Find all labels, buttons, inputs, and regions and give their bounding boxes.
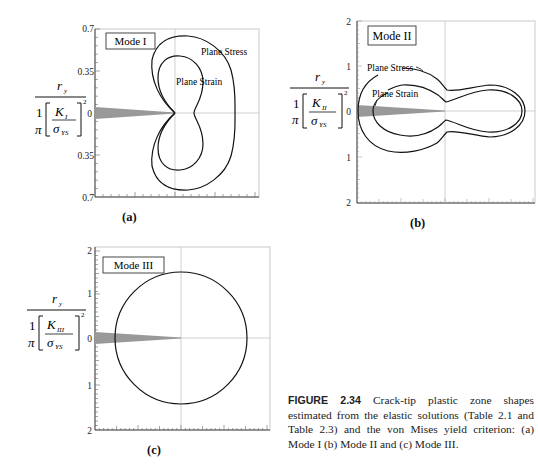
svg-text:0: 0 (87, 334, 92, 344)
figure-caption: FIGURE 2.34 Crack-tip plastic zone shape… (288, 393, 534, 451)
svg-text:σ: σ (311, 113, 318, 128)
plane-strain-label: Plane Strain (372, 89, 418, 99)
panel-b: Mode II Plane Stress Plane Strain 2 1 0 … (290, 17, 535, 208)
svg-text:0.35: 0.35 (77, 151, 94, 161)
svg-text:r: r (315, 69, 321, 84)
x-axis-ticks (361, 198, 533, 203)
svg-text:y: y (321, 78, 326, 86)
mode-label: Mode I (114, 35, 146, 47)
y-tick-labels: 0.7 0.35 0 0.35 0.7 (77, 24, 94, 203)
svg-text:r: r (52, 291, 58, 306)
subfigure-label-a: (a) (122, 210, 137, 225)
svg-text:1: 1 (36, 105, 43, 120)
svg-text:0: 0 (87, 109, 92, 119)
crack-shape (95, 107, 175, 119)
svg-text:0.35: 0.35 (77, 67, 94, 77)
svg-text:σ: σ (47, 335, 54, 350)
svg-text:2: 2 (344, 89, 348, 97)
svg-text:III: III (56, 326, 65, 334)
svg-text:YS: YS (319, 121, 327, 129)
svg-text:π: π (292, 112, 299, 127)
svg-text:YS: YS (55, 343, 63, 351)
svg-text:2: 2 (87, 246, 92, 256)
svg-text:y: y (63, 87, 68, 95)
crack-shape (357, 105, 445, 117)
x-axis-ticks (103, 192, 255, 197)
svg-text:1: 1 (346, 153, 351, 163)
plane-stress-label: Plane Stress (367, 63, 413, 73)
svg-text:1: 1 (87, 381, 92, 391)
plane-strain-label: Plane Strain (176, 77, 222, 87)
svg-text:II: II (321, 104, 327, 112)
y-axis-label: r y 1 π 2 K III σ YS (27, 291, 86, 351)
svg-text:1: 1 (29, 318, 36, 333)
svg-text:y: y (58, 300, 63, 308)
svg-text:2: 2 (83, 98, 87, 106)
svg-text:π: π (35, 122, 42, 137)
svg-text:0.7: 0.7 (82, 193, 94, 203)
svg-text:σ: σ (53, 121, 60, 136)
crack-shape (95, 332, 181, 344)
svg-text:π: π (28, 335, 35, 350)
panel-c: Mode III 2 1 0 1 2 r y 1 π 2 K III σ YS (27, 246, 270, 436)
figure-number: FIGURE 2.34 (288, 394, 361, 406)
x-axis-ticks (99, 425, 267, 430)
y-tick-labels: 2 1 0 1 2 (87, 246, 92, 436)
svg-text:K: K (54, 104, 65, 119)
svg-text:r: r (57, 78, 63, 93)
y-axis-label: r y 1 π 2 K II σ YS (290, 69, 349, 129)
svg-text:2: 2 (346, 198, 351, 208)
svg-text:0: 0 (346, 107, 351, 117)
svg-text:K: K (311, 95, 322, 110)
svg-text:0.7: 0.7 (82, 24, 94, 34)
svg-text:2: 2 (87, 426, 92, 436)
y-axis-label: r y 1 π 2 K I σ YS (35, 78, 87, 137)
svg-text:2: 2 (346, 17, 351, 27)
y-tick-labels: 2 1 0 1 2 (346, 17, 351, 208)
plane-stress-label: Plane Stress (201, 47, 247, 57)
mode-label: Mode III (114, 259, 154, 271)
svg-text:YS: YS (61, 129, 69, 137)
subfigure-label-c: (c) (147, 443, 161, 458)
svg-text:1: 1 (346, 62, 351, 72)
panel-a: Mode I Plane Stress Plane Strain 0.7 0.3… (35, 24, 259, 203)
svg-text:1: 1 (87, 289, 92, 299)
svg-text:2: 2 (81, 311, 85, 319)
svg-text:K: K (46, 317, 57, 332)
subfigure-label-b: (b) (410, 216, 425, 231)
mode-label: Mode II (373, 29, 412, 43)
svg-text:1: 1 (293, 96, 300, 111)
